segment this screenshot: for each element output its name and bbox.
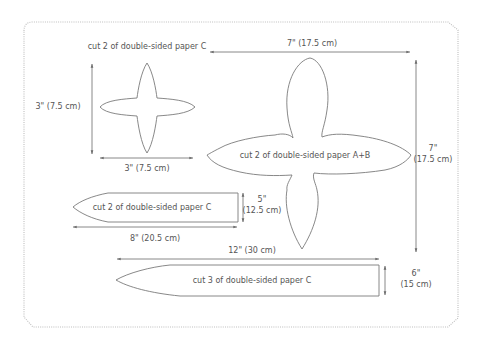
large-flower-height-label-inches: 7" — [429, 144, 438, 153]
large-flower-height-label-cm: (17.5 cm) — [414, 155, 453, 164]
short-strip-height-label-cm: (12.5 cm) — [243, 206, 282, 215]
large-flower-template: 7" (17.5 cm) cut 2 of double-sided paper… — [207, 39, 452, 252]
short-strip-template: cut 2 of double-sided paper C 5" (12.5 c… — [73, 193, 281, 243]
small-star-height-label: 3" (7.5 cm) — [35, 102, 80, 111]
long-strip-height-label-inches: 6" — [412, 269, 421, 278]
small-star-shape — [100, 63, 195, 153]
large-flower-label: cut 2 of double-sided paper A+B — [240, 151, 371, 160]
small-star-template: cut 2 of double-sided paper C 3" (7.5 cm… — [35, 42, 206, 173]
long-strip-width-label: 12" (30 cm) — [228, 246, 276, 255]
cutting-template-diagram: cut 2 of double-sided paper C 3" (7.5 cm… — [0, 0, 485, 347]
short-strip-width-label: 8" (20.5 cm) — [130, 234, 180, 243]
large-flower-width-label: 7" (17.5 cm) — [287, 39, 337, 48]
small-star-label: cut 2 of double-sided paper C — [88, 42, 207, 51]
long-strip-label: cut 3 of double-sided paper C — [193, 276, 312, 285]
long-strip-height-label-cm: (15 cm) — [400, 280, 431, 289]
small-star-width-label: 3" (7.5 cm) — [124, 164, 169, 173]
short-strip-height-label-inches: 5" — [258, 195, 267, 204]
long-strip-template: 12" (30 cm) cut 3 of double-sided paper … — [116, 246, 432, 296]
short-strip-label: cut 2 of double-sided paper C — [93, 203, 212, 212]
